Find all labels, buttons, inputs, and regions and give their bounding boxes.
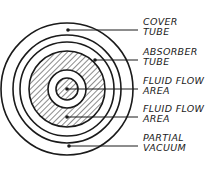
- label-line2: TUBE: [143, 26, 169, 37]
- label-line2: TUBE: [143, 56, 169, 67]
- label-line2: AREA: [142, 113, 170, 124]
- label-line2: VACUUM: [143, 142, 186, 153]
- label-line2: AREA: [142, 85, 170, 96]
- solar-tube-cross-section: COVERTUBEABSORBERTUBEFLUID FLOWAREAFLUID…: [0, 0, 214, 179]
